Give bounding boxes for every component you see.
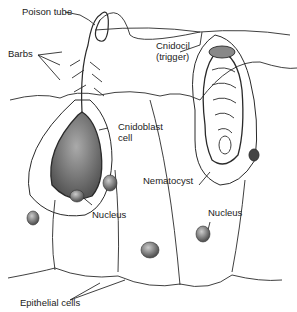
label-poison-tube: Poison tube: [22, 6, 72, 17]
label-cnidocil-trigger: (trigger): [156, 51, 189, 62]
cnidoblast-diagram: Poison tube Barbs Cnidocil (trigger) Cni…: [0, 0, 297, 312]
label-epithelial-cells: Epithelial cells: [20, 297, 80, 308]
label-nucleus-right: Nucleus: [208, 207, 242, 218]
label-cnidocil: Cnidocil: [156, 40, 190, 51]
label-barbs: Barbs: [8, 48, 33, 59]
label-nematocyst: Nematocyst: [143, 175, 193, 186]
label-cnidoblast-cell: cell: [118, 132, 132, 143]
illustration: [0, 0, 297, 312]
label-nucleus-left: Nucleus: [92, 209, 126, 220]
label-cnidoblast: Cnidoblast: [118, 121, 163, 132]
